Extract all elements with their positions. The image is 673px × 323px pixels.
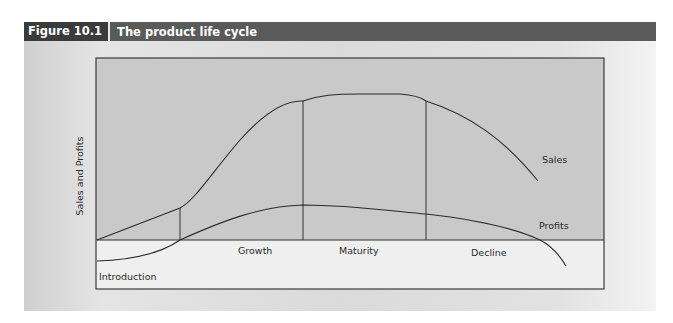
stage-label-growth: Growth <box>238 245 272 256</box>
stage-label-decline: Decline <box>471 247 507 258</box>
y-axis-label: Sales and Profits <box>74 136 85 215</box>
series-label-sales: Sales <box>542 154 567 165</box>
series-label-profits: Profits <box>539 220 569 231</box>
plot-area-upper <box>96 58 604 240</box>
stage-label-maturity: Maturity <box>339 245 379 256</box>
stage-label-introduction: Introduction <box>99 271 157 282</box>
product-life-cycle-chart: Sales and Profits Introduction Growth Ma… <box>0 0 673 323</box>
